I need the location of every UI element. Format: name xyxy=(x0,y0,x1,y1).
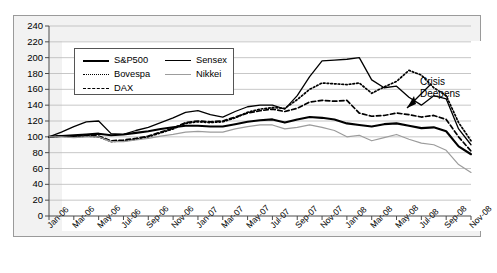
chart-container: 020406080100120140160180200220240 Jan-06… xyxy=(0,0,497,273)
y-axis-tick-label: 80 xyxy=(17,148,43,158)
legend: S&P500 Sensex Bovespa Nikkei DAX xyxy=(74,48,234,95)
legend-label-nikkei: Nikkei xyxy=(196,69,221,79)
crisis-arrow-head xyxy=(407,96,416,108)
chart-frame: 020406080100120140160180200220240 Jan-06… xyxy=(13,15,481,237)
legend-swatch-nikkei-icon xyxy=(165,70,191,78)
y-axis-tick-label: 20 xyxy=(17,195,43,205)
legend-item-sp500[interactable]: S&P500 xyxy=(83,54,148,65)
legend-item-sensex[interactable]: Sensex xyxy=(165,54,227,65)
y-tick-marks xyxy=(45,26,49,216)
y-axis-tick-label: 220 xyxy=(17,37,43,47)
crisis-annotation-line1: Crisis xyxy=(420,76,460,88)
legend-swatch-sp500-icon xyxy=(83,56,109,64)
y-axis-tick-label: 240 xyxy=(17,21,43,31)
legend-swatch-bovespa-icon xyxy=(83,70,109,78)
y-axis-tick-label: 140 xyxy=(17,100,43,110)
legend-swatch-dax-icon xyxy=(83,84,109,92)
y-axis-tick-label: 180 xyxy=(17,69,43,79)
legend-item-bovespa[interactable]: Bovespa xyxy=(83,68,150,79)
legend-item-nikkei[interactable]: Nikkei xyxy=(165,68,221,79)
y-axis-tick-label: 160 xyxy=(17,84,43,94)
series-line-nikkei xyxy=(49,125,471,173)
legend-label-sp500: S&P500 xyxy=(114,55,148,65)
y-axis-tick-label: 120 xyxy=(17,116,43,126)
legend-swatch-sensex-icon xyxy=(165,56,191,64)
series-line-sp500 xyxy=(49,117,471,154)
crisis-annotation-line2: Deepens xyxy=(420,88,460,100)
y-axis-tick-label: 40 xyxy=(17,179,43,189)
legend-label-dax: DAX xyxy=(114,83,133,93)
legend-label-bovespa: Bovespa xyxy=(114,69,150,79)
y-axis-tick-label: 0 xyxy=(17,211,43,221)
legend-item-dax[interactable]: DAX xyxy=(83,82,133,93)
crisis-annotation: Crisis Deepens xyxy=(420,76,460,100)
y-axis-tick-label: 200 xyxy=(17,53,43,63)
legend-label-sensex: Sensex xyxy=(196,55,227,65)
y-axis-tick-label: 60 xyxy=(17,164,43,174)
y-axis-tick-label: 100 xyxy=(17,132,43,142)
